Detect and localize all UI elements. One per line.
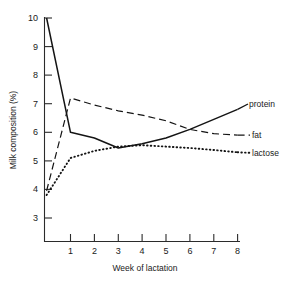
milk-composition-line-chart: 3 4 5 6 7 8 9 10 1 2 3 4 5 6 bbox=[0, 0, 290, 286]
y-axis-tick-labels: 3 4 5 6 7 8 9 10 bbox=[28, 13, 38, 223]
y-axis-title: Milk composition (%) bbox=[8, 91, 18, 170]
y-tick-label-5: 5 bbox=[33, 156, 38, 166]
y-tick-label-4: 4 bbox=[33, 184, 38, 194]
x-tick-label-6: 6 bbox=[187, 246, 192, 256]
series-line-lactose bbox=[47, 145, 238, 195]
y-tick-label-8: 8 bbox=[33, 70, 38, 80]
x-tick-label-5: 5 bbox=[163, 246, 168, 256]
y-tick-label-7: 7 bbox=[33, 99, 38, 109]
y-tick-label-10: 10 bbox=[28, 13, 38, 23]
leader-line-protein bbox=[238, 104, 248, 109]
x-tick-label-3: 3 bbox=[116, 246, 121, 256]
x-axis-ticks bbox=[71, 234, 238, 242]
x-tick-label-4: 4 bbox=[140, 246, 145, 256]
series-label-fat: fat bbox=[252, 130, 262, 140]
y-tick-label-3: 3 bbox=[33, 213, 38, 223]
x-tick-label-7: 7 bbox=[211, 246, 216, 256]
series-line-protein bbox=[47, 18, 238, 148]
chart-canvas: 3 4 5 6 7 8 9 10 1 2 3 4 5 6 bbox=[0, 0, 290, 286]
leader-line-lactose bbox=[238, 152, 250, 153]
series-label-lactose: lactose bbox=[252, 148, 279, 158]
x-tick-label-8: 8 bbox=[235, 246, 240, 256]
x-tick-label-2: 2 bbox=[92, 246, 97, 256]
y-tick-label-6: 6 bbox=[33, 127, 38, 137]
x-axis-title: Week of lactation bbox=[112, 263, 177, 273]
series-label-protein: protein bbox=[249, 99, 275, 109]
x-axis-tick-labels: 1 2 3 4 5 6 7 8 bbox=[68, 246, 240, 256]
x-tick-label-1: 1 bbox=[68, 246, 73, 256]
y-tick-label-9: 9 bbox=[33, 42, 38, 52]
